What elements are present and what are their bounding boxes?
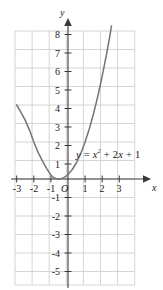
y-tick-label-6: 6 (45, 67, 60, 77)
y-tick-label-2: 2 (45, 141, 60, 151)
x-tick-label-neg1: -1 (42, 184, 60, 194)
y-tick-label-1: 1 (45, 160, 60, 170)
y-tick-label-5: 5 (45, 86, 60, 96)
y-axis-label: y (60, 8, 64, 18)
x-tick-label-neg2: -2 (25, 184, 43, 194)
equation-equals: = (84, 149, 90, 160)
x-axis-arrowhead (143, 175, 151, 183)
equation-term2-variable: x (118, 149, 123, 160)
x-axis-label: x (152, 183, 156, 193)
y-axis (64, 18, 72, 288)
y-tick-label-neg3: -3 (42, 230, 60, 240)
equation-annotation: y = x2 + 2x + 1 (76, 148, 140, 160)
origin-label: O (61, 184, 68, 194)
equation-lhs: y (76, 149, 81, 160)
equation-term1-exponent: 2 (98, 147, 101, 154)
y-tick-label-neg2: -2 (42, 212, 60, 222)
y-tick-label-7: 7 (45, 49, 60, 59)
parabola-graph-figure: 8 7 6 5 4 3 2 1 -1 -2 -3 -4 -5 -3 -2 -1 … (0, 0, 163, 290)
x-tick-label-2: 2 (96, 184, 108, 194)
equation-plus-2: + (126, 149, 132, 160)
y-tick-label-3: 3 (45, 123, 60, 133)
x-tick-label-1: 1 (79, 184, 91, 194)
y-tick-label-neg4: -4 (42, 249, 60, 259)
y-tick-label-4: 4 (45, 104, 60, 114)
y-tick-label-8: 8 (45, 30, 60, 40)
x-tick-label-neg3: -3 (8, 184, 26, 194)
y-tick-label-neg1: -1 (42, 193, 60, 203)
equation-term3: 1 (135, 149, 140, 160)
y-axis-arrowhead (64, 18, 72, 26)
equation-plus-1: + (104, 149, 110, 160)
y-tick-label-neg5: -5 (42, 267, 60, 277)
x-tick-label-3: 3 (113, 184, 125, 194)
coordinate-plane (0, 0, 163, 290)
